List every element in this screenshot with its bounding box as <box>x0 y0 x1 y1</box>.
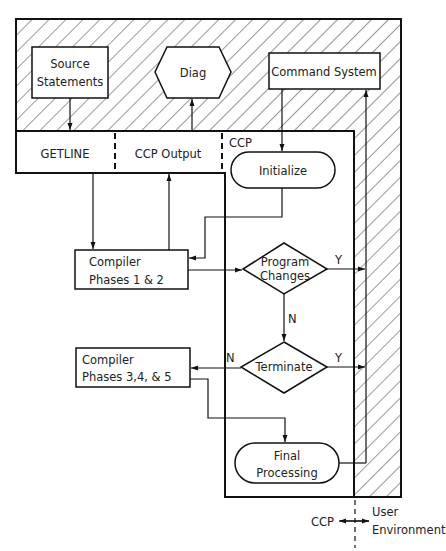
node-initialize: Initialize <box>231 152 335 188</box>
legend-ccp-label: CCP <box>311 515 334 529</box>
svg-text:Compiler: Compiler <box>89 255 141 269</box>
svg-text:Final: Final <box>274 449 301 463</box>
svg-text:Processing: Processing <box>256 466 317 480</box>
svg-text:Command System: Command System <box>271 65 377 79</box>
svg-text:Compiler: Compiler <box>82 353 134 367</box>
svg-text:Terminate: Terminate <box>255 360 313 374</box>
svg-text:Phases 1 & 2: Phases 1 & 2 <box>89 273 164 287</box>
ccp-region-label: CCP <box>229 136 252 150</box>
label-terminate-yes: Y <box>334 351 343 365</box>
flowchart-diagram: CCP GETLINE CCP Output Source Statements… <box>0 0 446 551</box>
label-program-changes-no: N <box>288 312 297 326</box>
legend-environment-label: Environment <box>372 523 446 537</box>
legend-user-label: User <box>372 505 398 519</box>
svg-text:CCP Output: CCP Output <box>135 147 202 161</box>
svg-text:Source: Source <box>50 57 90 71</box>
svg-text:Initialize: Initialize <box>259 164 307 178</box>
svg-text:Statements: Statements <box>37 75 104 89</box>
svg-text:Changes: Changes <box>260 269 310 283</box>
svg-text:Program: Program <box>261 255 310 269</box>
svg-text:GETLINE: GETLINE <box>41 147 90 161</box>
label-program-changes-yes: Y <box>334 253 343 267</box>
node-ccp-output: CCP Output <box>135 147 202 161</box>
svg-text:Diag: Diag <box>180 66 206 80</box>
node-getline: GETLINE <box>41 147 90 161</box>
svg-text:Phases 3,4, & 5: Phases 3,4, & 5 <box>82 370 172 384</box>
node-compiler-phases-1-2: Compiler Phases 1 & 2 <box>75 250 188 289</box>
node-command-system: Command System <box>269 53 380 89</box>
boundary-legend: CCP User Environment <box>311 500 446 548</box>
label-terminate-no: N <box>226 351 235 365</box>
node-source-statements: Source Statements <box>32 47 108 98</box>
node-compiler-phases-3-4-5: Compiler Phases 3,4, & 5 <box>76 348 190 387</box>
node-diag: Diag <box>155 47 231 98</box>
node-final-processing: Final Processing <box>235 443 339 483</box>
